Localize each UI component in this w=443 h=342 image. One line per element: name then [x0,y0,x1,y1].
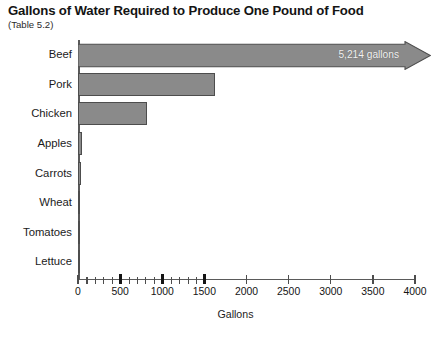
x-axis-minor-tick [188,277,189,284]
x-axis-tick-label: 2500 [277,286,300,297]
x-axis-minor-tick [112,277,113,284]
category-label-tomatoes: Tomatoes [0,226,72,238]
chart-subtitle: (Table 5.2) [8,19,53,30]
bar-row: Carrots [0,158,443,188]
bar-row: Apples [0,129,443,159]
x-axis-tick [246,275,247,284]
x-axis-tick [203,274,206,284]
bar-wheat [78,191,80,214]
x-axis-tick [372,275,373,284]
plot-area: Beef5,214 gallonsPorkChickenApplesCarrot… [0,34,443,342]
x-axis-tick-label: 2000 [235,286,258,297]
category-label-chicken: Chicken [0,107,72,119]
x-axis-minor-tick [86,277,87,284]
x-axis-minor-tick [171,277,172,284]
x-axis-tick-label: 4000 [403,286,426,297]
bar-row: Pork [0,70,443,100]
x-axis-title: Gallons [0,308,443,320]
x-axis-tick-label: 1000 [151,286,174,297]
x-axis-tick [288,275,289,284]
x-axis-tick [77,275,78,284]
x-axis-minor-tick [145,277,146,284]
bar-value-label-beef: 5,214 gallons [338,49,399,60]
x-axis-tick-label: 1500 [193,286,216,297]
bar-row: Chicken [0,99,443,129]
x-axis-tick-label: 3500 [361,286,384,297]
chart-title: Gallons of Water Required to Produce One… [8,3,364,18]
x-axis-minor-tick [179,277,180,284]
category-label-carrots: Carrots [0,167,72,179]
bar-row: Beef5,214 gallons [0,40,443,70]
x-axis-minor-tick [196,277,197,284]
bar-row: Tomatoes [0,218,443,248]
x-axis-minor-tick [95,277,96,284]
bar-carrots [78,162,81,185]
x-axis-tick-label: 500 [111,286,128,297]
bar-apples [78,132,82,155]
x-axis-tick-label: 0 [75,286,81,297]
bar-chicken [78,102,147,125]
x-axis-tick [119,274,122,284]
water-usage-bar-chart: Gallons of Water Required to Produce One… [0,0,443,342]
category-label-beef: Beef [0,48,72,60]
category-label-wheat: Wheat [0,196,72,208]
x-axis-minor-tick [103,277,104,284]
bar-tomatoes [78,221,80,244]
x-axis-minor-tick [137,277,138,284]
x-axis-minor-tick [129,277,130,284]
bar-pork [78,73,215,96]
bar-row: Wheat [0,188,443,218]
x-axis-tick [330,275,331,284]
x-axis-tick [161,274,164,284]
category-label-pork: Pork [0,78,72,90]
x-axis-tick-label: 3000 [319,286,342,297]
bar-lettuce [78,250,80,273]
x-axis-tick [414,275,415,284]
category-label-apples: Apples [0,137,72,149]
category-label-lettuce: Lettuce [0,255,72,267]
bar-row: Lettuce [0,247,443,277]
bar-beef-arrow: 5,214 gallons [78,41,431,70]
x-axis-minor-tick [154,277,155,284]
